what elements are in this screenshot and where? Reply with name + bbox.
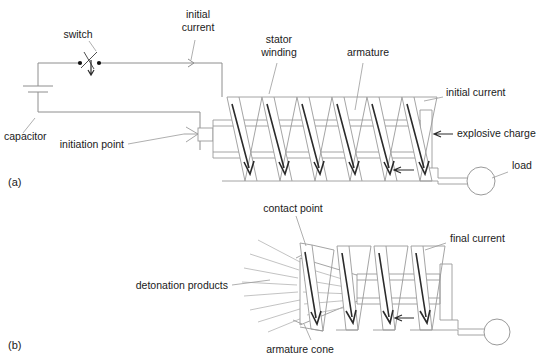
label-initiation-point: initiation point bbox=[60, 138, 124, 150]
armature-endcap-b bbox=[440, 264, 452, 320]
wire-capacitor-top bbox=[38, 63, 79, 86]
leader-armature bbox=[355, 63, 363, 110]
load-lead-top bbox=[432, 168, 468, 178]
label-explosive-charge: explosive charge bbox=[457, 127, 536, 139]
leader-stator-winding bbox=[269, 63, 277, 94]
label-initial-current-top-line2: current bbox=[182, 21, 215, 33]
leader-initiation-point bbox=[128, 134, 184, 144]
label-armature-cone: armature cone bbox=[266, 343, 334, 355]
leader-detonation-products bbox=[232, 280, 270, 285]
load-symbol-b bbox=[484, 319, 510, 345]
leader-contact-point bbox=[296, 216, 306, 246]
load-assembly-b bbox=[432, 319, 510, 345]
detonation-products-rays bbox=[242, 240, 307, 332]
switch-terminal-left bbox=[78, 61, 82, 65]
label-contact-point: contact point bbox=[263, 202, 323, 214]
detonation-ray bbox=[244, 268, 298, 278]
load-lead-bottom-b bbox=[432, 330, 485, 335]
detonation-ray bbox=[250, 300, 300, 310]
label-stator-winding-line1: stator bbox=[266, 33, 293, 45]
switch-blade-2 bbox=[84, 52, 94, 69]
panel-label-a: (a) bbox=[8, 176, 21, 188]
leader-armature-cone bbox=[304, 324, 311, 340]
load-symbol bbox=[467, 167, 495, 195]
label-switch: switch bbox=[63, 28, 92, 40]
label-final-current: final current bbox=[450, 232, 505, 244]
leader-final-current bbox=[425, 243, 446, 250]
label-initial-current-right: initial current bbox=[446, 86, 506, 98]
capacitor-circuit bbox=[23, 52, 222, 150]
panel-a: switch initial current stator winding ar… bbox=[4, 8, 536, 195]
label-capacitor: capacitor bbox=[4, 130, 47, 142]
label-detonation-products: detonation products bbox=[136, 279, 228, 291]
initiation-point-assembly bbox=[184, 127, 213, 142]
cone-contact-tip bbox=[296, 255, 302, 258]
figure-container: switch initial current stator winding ar… bbox=[0, 0, 543, 361]
load-lead-top-b bbox=[452, 320, 485, 329]
label-stator-winding-line2: winding bbox=[260, 46, 297, 58]
explosive-charge-arrow bbox=[434, 131, 453, 137]
leader-switch bbox=[89, 41, 96, 51]
label-load: load bbox=[512, 159, 532, 171]
label-initial-current-top-line1: initial bbox=[186, 8, 210, 20]
initiation-block bbox=[198, 128, 213, 141]
leader-initial-current-right bbox=[424, 97, 443, 101]
wire-switch-to-coil-top bbox=[100, 63, 222, 97]
panel-b: contact point final current detonation p… bbox=[8, 202, 510, 355]
figure-svg: switch initial current stator winding ar… bbox=[0, 0, 543, 361]
detonation-ray bbox=[250, 254, 299, 270]
compression-arrow-a bbox=[394, 167, 414, 173]
switch-terminal-right bbox=[97, 61, 101, 65]
load-lead-bottom bbox=[420, 181, 468, 184]
compression-arrow-b bbox=[395, 315, 414, 321]
load-assembly bbox=[420, 167, 495, 195]
label-armature: armature bbox=[347, 46, 389, 58]
detonation-ray bbox=[244, 292, 298, 296]
wire-capacitor-bottom bbox=[38, 92, 200, 112]
switch-icon bbox=[81, 52, 97, 75]
leader-load bbox=[492, 172, 508, 178]
detonation-ray bbox=[258, 308, 303, 322]
panel-label-b: (b) bbox=[8, 339, 21, 351]
leader-initial-current-top bbox=[191, 40, 195, 60]
initiation-rays bbox=[184, 127, 198, 142]
